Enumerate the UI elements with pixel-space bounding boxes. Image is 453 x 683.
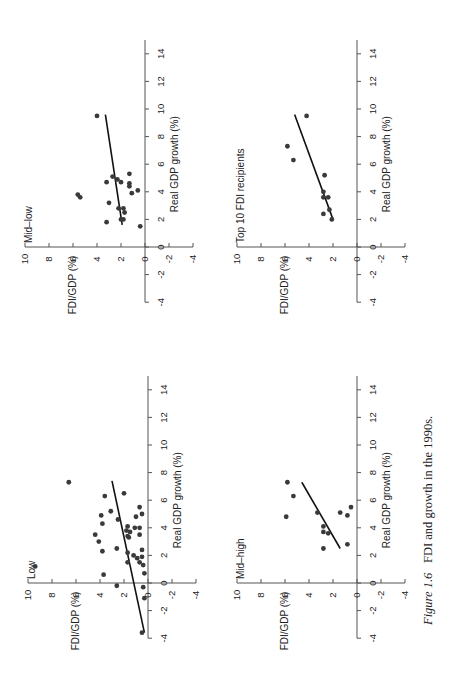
data-point: [304, 114, 309, 119]
data-point: [140, 547, 145, 552]
x-tick-label: -2: [367, 606, 378, 614]
x-tick-label: 6: [367, 498, 378, 503]
data-point: [315, 510, 320, 515]
data-point: [126, 535, 131, 540]
data-point: [119, 180, 124, 185]
y-tick-label: 4: [303, 592, 314, 597]
data-point: [345, 542, 350, 547]
x-tick-label: 6: [155, 162, 166, 167]
x-tick-label: 12: [367, 76, 378, 87]
data-point: [104, 180, 109, 185]
x-tick-label: 14: [158, 385, 169, 396]
y-tick-label: 4: [303, 256, 314, 261]
x-tick-label: 6: [158, 498, 169, 503]
panel-title: Mid–high: [235, 538, 246, 579]
y-tick-label: 4: [91, 256, 102, 261]
data-point: [141, 563, 146, 568]
data-point: [134, 514, 139, 519]
y-axis-label: FDI/GDP (%): [279, 256, 290, 315]
x-tick-label: 8: [367, 134, 378, 139]
data-point: [284, 514, 289, 519]
x-tick-label: 4: [155, 189, 166, 194]
caption-label: Figure 1.6: [421, 572, 435, 626]
data-point: [135, 188, 140, 193]
data-point: [125, 560, 130, 565]
y-tick-label: -2: [375, 591, 386, 599]
x-tick-label: 14: [367, 385, 378, 396]
x-tick-label: 4: [158, 525, 169, 530]
x-tick-label: 8: [158, 470, 169, 475]
panel-title: Low: [26, 560, 37, 579]
trend-line: [112, 481, 144, 633]
data-point: [322, 173, 327, 178]
x-tick-label: 2: [158, 553, 169, 558]
data-point: [100, 549, 105, 554]
x-tick-label: 12: [155, 76, 166, 87]
data-point: [125, 550, 130, 555]
panel-title: Top 10 FDI recipients: [235, 149, 246, 244]
data-point: [101, 572, 106, 577]
x-axis-label: Real GDP growth (%): [172, 452, 183, 548]
data-point: [135, 556, 140, 561]
data-point: [329, 217, 334, 222]
data-point: [78, 195, 83, 200]
panel-title: Mid–low: [23, 206, 34, 243]
data-point: [321, 189, 326, 194]
y-tick-label: 10: [19, 254, 30, 265]
y-tick-label: -2: [375, 255, 386, 263]
data-point: [114, 546, 119, 551]
x-tick-label: 10: [367, 104, 378, 115]
x-tick-label: -4: [155, 298, 166, 306]
y-tick-label: 2: [115, 256, 126, 261]
x-tick-label: 0: [155, 244, 166, 249]
data-point: [321, 524, 326, 529]
data-point: [127, 171, 132, 176]
y-tick-label: 8: [43, 256, 54, 261]
data-point: [291, 158, 296, 163]
x-tick-label: 14: [367, 49, 378, 60]
y-tick-label: 0: [351, 592, 362, 597]
figure-caption: Figure 1.6 FDI and growth in the 1990s.: [421, 416, 435, 626]
trend-line: [295, 115, 333, 220]
data-point: [142, 596, 147, 601]
figure-page: -4-202468101214-4-20246810Real GDP growt…: [0, 0, 453, 683]
x-tick-label: 12: [367, 412, 378, 423]
data-point: [321, 211, 326, 216]
data-point: [326, 195, 331, 200]
y-tick-label: -4: [399, 591, 410, 599]
data-point: [349, 505, 354, 510]
data-point: [321, 530, 326, 535]
data-point: [102, 494, 107, 499]
x-tick-label: 8: [155, 134, 166, 139]
data-point: [137, 505, 142, 510]
y-tick-label: 10: [22, 590, 33, 601]
y-tick-label: 10: [231, 590, 242, 601]
data-point: [99, 513, 104, 518]
x-tick-label: -2: [155, 270, 166, 278]
x-tick-label: 6: [367, 162, 378, 167]
y-tick-label: -2: [166, 591, 177, 599]
data-point: [285, 144, 290, 149]
x-tick-label: -4: [367, 634, 378, 642]
data-point: [321, 546, 326, 551]
y-tick-label: -2: [163, 255, 174, 263]
data-point: [114, 583, 119, 588]
x-tick-label: 12: [158, 412, 169, 423]
data-point: [138, 224, 143, 229]
panel-mid-high: -4-202468101214-4-20246810Real GDP growt…: [231, 376, 410, 650]
data-point: [345, 513, 350, 518]
data-point: [326, 531, 331, 536]
y-tick-label: 2: [327, 256, 338, 261]
data-point: [338, 510, 343, 515]
data-point: [119, 217, 124, 222]
x-tick-label: 2: [367, 217, 378, 222]
data-point: [122, 491, 127, 496]
x-tick-label: 14: [155, 49, 166, 60]
y-tick-label: 10: [231, 254, 242, 265]
data-point: [95, 114, 100, 119]
data-point: [140, 554, 145, 559]
data-point: [137, 532, 142, 537]
x-tick-label: -4: [158, 634, 169, 642]
x-tick-label: -2: [158, 606, 169, 614]
data-point: [66, 480, 71, 485]
